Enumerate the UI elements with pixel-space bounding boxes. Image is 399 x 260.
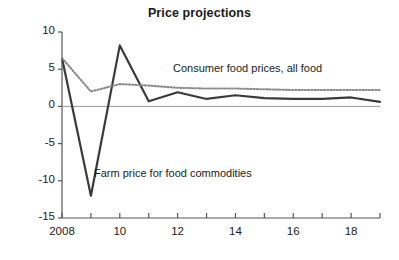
x-tick-label: 10 [90, 225, 150, 237]
chart-plot-area [0, 0, 399, 260]
axes-group [58, 32, 380, 218]
x-tick-label: 2008 [32, 225, 92, 237]
y-tick-label: 10 [42, 24, 55, 36]
x-tick-label: 12 [148, 225, 208, 237]
y-tick-label: -5 [45, 136, 55, 148]
series-annotation-label: Consumer food prices, all food [173, 62, 322, 74]
x-tick-label: 16 [263, 225, 323, 237]
x-tick-label: 14 [205, 225, 265, 237]
price-projections-chart-figure: Price projections 1050-5-10-15 200810121… [0, 0, 399, 260]
y-tick-label: -15 [38, 210, 55, 222]
y-tick-label: 5 [49, 61, 55, 73]
x-tick-label: 18 [321, 225, 381, 237]
y-tick-label: -10 [38, 173, 55, 185]
y-tick-label: 0 [49, 98, 55, 110]
series-annotation-label: Farm price for food commodities [94, 167, 252, 179]
